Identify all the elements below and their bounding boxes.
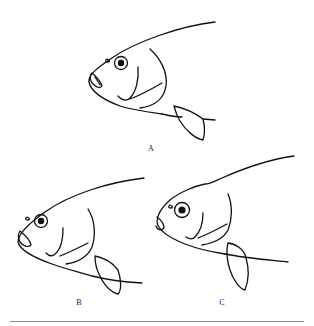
- bottom-rule: [10, 321, 304, 322]
- panel-label-c: C: [219, 298, 224, 307]
- panel-label-b: B: [76, 298, 81, 307]
- fish-drawings: [0, 0, 314, 326]
- figure: A B C: [0, 0, 314, 326]
- panel-label-a: A: [148, 144, 154, 153]
- fish-c-drawing: [156, 156, 294, 290]
- fish-a-drawing: [89, 22, 215, 140]
- fish-b-drawing: [18, 178, 144, 294]
